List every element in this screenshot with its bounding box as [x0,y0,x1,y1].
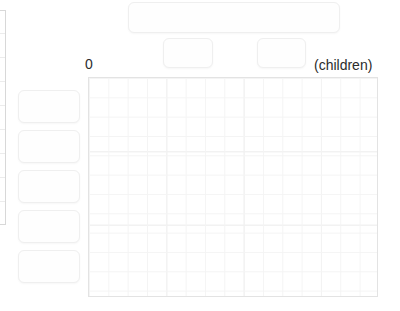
panel-divider [0,33,5,34]
panel-divider [0,57,5,58]
row-label-input-3[interactable] [18,170,80,203]
panel-divider [0,105,5,106]
axis-unit-label: (children) [314,57,372,73]
screenshot-canvas: 0 (children) [0,0,400,311]
chart-title-input[interactable] [128,2,340,33]
panel-divider [0,129,5,130]
axis-origin-label: 0 [85,56,93,72]
left-clipped-panel [0,10,6,225]
panel-divider [0,177,5,178]
panel-divider [0,81,5,82]
chart-subtitle-input-right[interactable] [257,38,306,68]
row-label-input-1[interactable] [18,90,80,123]
panel-divider [0,153,5,154]
chart-subtitle-input-left[interactable] [163,38,213,68]
row-label-input-4[interactable] [18,210,80,243]
row-label-input-2[interactable] [18,130,80,163]
panel-divider [0,201,5,202]
plot-grid-area[interactable] [88,77,378,297]
row-label-input-5[interactable] [18,250,80,283]
